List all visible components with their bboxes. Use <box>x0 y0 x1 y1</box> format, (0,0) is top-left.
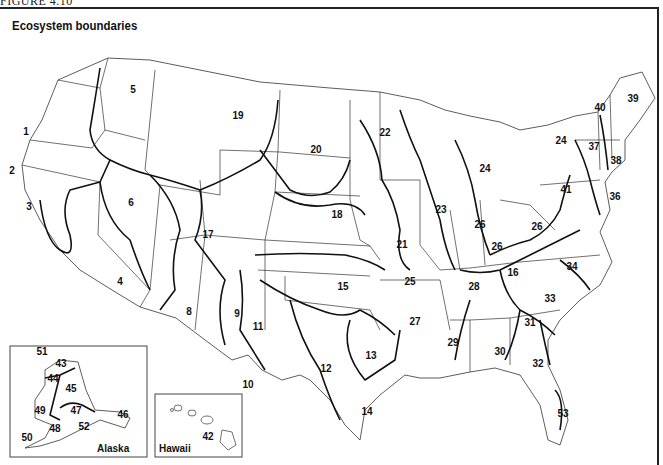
region-label-32: 32 <box>532 358 544 369</box>
region-label-25: 25 <box>404 276 416 287</box>
region-label-5: 5 <box>130 84 136 95</box>
region-label-24: 24 <box>479 163 491 174</box>
region-label-8: 8 <box>186 306 192 317</box>
region-label-50: 50 <box>21 432 33 443</box>
region-label-39: 39 <box>627 93 639 104</box>
region-label-2: 2 <box>9 165 15 176</box>
region-label-34: 34 <box>566 261 578 272</box>
region-label-43: 43 <box>55 358 67 369</box>
region-label-19: 19 <box>232 110 244 121</box>
region-label-14: 14 <box>361 406 373 417</box>
region-label-21: 21 <box>396 239 408 250</box>
ecosystem-map: Alaska Hawaii 12345689101112131415161718… <box>0 0 663 465</box>
region-label-47: 47 <box>70 405 82 416</box>
region-label-17: 17 <box>202 229 214 240</box>
region-label-46: 46 <box>117 409 129 420</box>
region-label-26: 26 <box>491 241 503 252</box>
region-label-10: 10 <box>242 379 254 390</box>
region-label-20: 20 <box>310 144 322 155</box>
region-label-30: 30 <box>494 346 506 357</box>
region-label-1: 1 <box>23 126 29 137</box>
region-label-27: 27 <box>409 316 421 327</box>
region-label-15: 15 <box>337 281 349 292</box>
region-label-26: 26 <box>531 221 543 232</box>
region-label-9: 9 <box>234 308 240 319</box>
region-label-48: 48 <box>49 423 61 434</box>
region-label-49: 49 <box>34 405 46 416</box>
region-label-44: 44 <box>47 373 59 384</box>
region-label-38: 38 <box>610 155 622 166</box>
alaska-label: Alaska <box>97 443 130 454</box>
region-label-18: 18 <box>331 209 343 220</box>
region-label-29: 29 <box>447 337 459 348</box>
region-label-31: 31 <box>524 317 536 328</box>
region-label-51: 51 <box>36 346 48 357</box>
region-label-37: 37 <box>588 141 600 152</box>
region-label-24: 24 <box>555 135 567 146</box>
region-label-16: 16 <box>507 267 519 278</box>
region-label-22: 22 <box>379 127 391 138</box>
region-label-26: 26 <box>474 219 486 230</box>
region-label-33: 33 <box>544 293 556 304</box>
region-label-12: 12 <box>320 363 332 374</box>
region-label-6: 6 <box>128 197 134 208</box>
hawaii-label: Hawaii <box>159 443 191 454</box>
region-label-42: 42 <box>202 431 214 442</box>
region-label-40: 40 <box>594 102 606 113</box>
region-label-45: 45 <box>65 383 77 394</box>
region-label-13: 13 <box>365 350 377 361</box>
region-label-53: 53 <box>557 408 569 419</box>
region-label-11: 11 <box>253 321 264 332</box>
region-label-23: 23 <box>435 204 447 215</box>
region-label-28: 28 <box>468 281 480 292</box>
region-label-36: 36 <box>609 191 621 202</box>
region-label-52: 52 <box>78 421 90 432</box>
region-label-4: 4 <box>117 276 123 287</box>
region-label-41: 41 <box>560 184 572 195</box>
region-label-3: 3 <box>26 201 32 212</box>
